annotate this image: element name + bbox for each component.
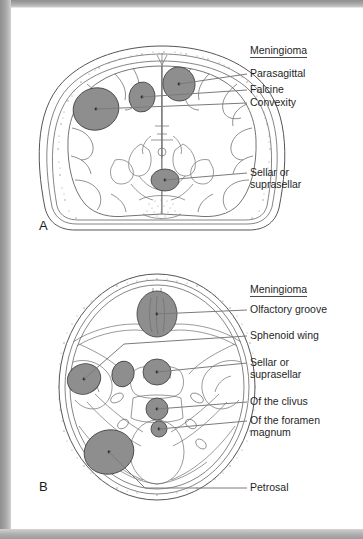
plate-frame-top <box>0 0 363 7</box>
label-falcine: Falcine <box>250 84 284 96</box>
panel-b-legend: Meningioma <box>250 279 307 297</box>
label-parasagittal: Parasagittal <box>250 68 305 80</box>
label-of-the-foramen-magnum: Of the foramen magnum <box>250 415 320 438</box>
label-sellar-suprasellar-a: Sellar or suprasellar <box>250 167 301 190</box>
label-petrosal: Petrosal <box>250 482 289 494</box>
label-of-the-clivus: Of the clivus <box>250 396 308 408</box>
label-sellar-suprasellar-b: Sellar or suprasellar <box>250 357 301 380</box>
label-sphenoid-wing: Sphenoid wing <box>250 330 319 342</box>
panel-a-letter: A <box>39 218 48 233</box>
label-olfactory-groove: Olfactory groove <box>250 304 327 316</box>
panel-b-legend-title: Meningioma <box>250 284 307 297</box>
coronal-brain-illustration <box>11 8 363 266</box>
plate-frame-left <box>0 0 11 539</box>
label-convexity: Convexity <box>250 97 296 109</box>
panel-a-legend-title: Meningioma <box>250 45 307 58</box>
panel-b-axial: Meningioma Olfactory groove Sphenoid win… <box>11 266 363 529</box>
panel-b-letter: B <box>39 479 48 494</box>
figure-plate: Meningioma Parasagittal Falcine Convexit… <box>0 0 363 539</box>
panel-a-legend: Meningioma <box>250 40 307 58</box>
panel-a-coronal: Meningioma Parasagittal Falcine Convexit… <box>11 8 363 266</box>
plate-frame-bottom <box>0 529 363 539</box>
